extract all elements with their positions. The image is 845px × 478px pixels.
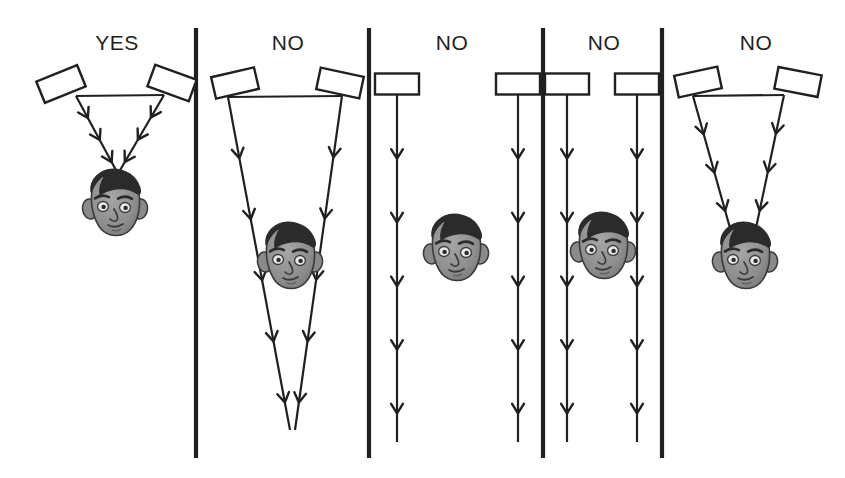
panel-verdict-label: NO — [740, 31, 773, 54]
panel-verdict-label: YES — [95, 31, 139, 54]
speaker-right — [615, 74, 659, 95]
speaker-baseline — [693, 95, 784, 96]
left-pupil — [589, 248, 593, 252]
left-pupil — [276, 258, 280, 262]
panel-verdict-label: NO — [588, 31, 621, 54]
right-pupil — [123, 206, 127, 210]
right-pupil — [753, 259, 757, 263]
speaker-placement-figure: YESNONONONO — [0, 0, 845, 478]
speaker-baseline — [76, 95, 164, 96]
left-pupil — [442, 250, 446, 254]
right-pupil — [298, 259, 302, 263]
left-pupil — [101, 205, 105, 209]
right-pupil — [464, 251, 468, 255]
speaker-left — [545, 74, 589, 95]
speaker-baseline — [228, 96, 342, 97]
panel-verdict-label: NO — [436, 31, 469, 54]
speaker-left — [375, 74, 419, 95]
left-pupil — [731, 258, 735, 262]
figure-canvas: YESNONONONO — [0, 0, 845, 478]
right-pupil — [611, 249, 615, 253]
speaker-right — [496, 74, 540, 95]
panel-verdict-label: NO — [272, 31, 305, 54]
